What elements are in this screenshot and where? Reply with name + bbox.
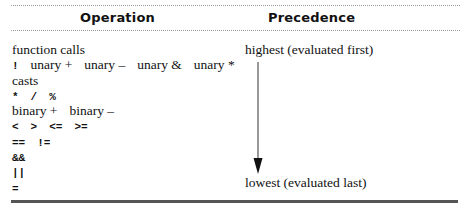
header-operation: Operation [80, 10, 155, 25]
operator-token: unary – [84, 57, 125, 72]
operation-row: casts [12, 73, 247, 88]
operator-token: casts [12, 73, 38, 88]
operator-token: unary * [194, 57, 235, 72]
operator-token: = [12, 182, 19, 197]
precedence-highest: highest (evaluated first) [245, 42, 373, 58]
operation-row: binary +binary – [12, 103, 247, 118]
operator-token: binary – [69, 103, 114, 118]
operator-token: unary & [137, 57, 182, 72]
operation-row: ==!= [12, 134, 247, 149]
operator-token: binary + [12, 103, 57, 118]
operation-row: !unary +unary –unary &unary * [12, 57, 247, 72]
operator-token: function calls [12, 42, 85, 57]
operator-token: unary + [31, 57, 73, 72]
operation-row: || [12, 164, 247, 179]
operation-row: = [12, 180, 247, 195]
down-arrow-icon [252, 62, 264, 174]
operations-column: function calls!unary +unary –unary &unar… [12, 42, 247, 195]
table-top-rule [11, 5, 460, 6]
precedence-lowest: lowest (evaluated last) [245, 175, 366, 191]
arrow-head [254, 158, 263, 174]
operator-token: >= [74, 120, 87, 135]
header-rule [11, 30, 460, 31]
operation-row: <><=>= [12, 118, 247, 133]
header-precedence: Precedence [268, 10, 355, 25]
operation-row: */% [12, 88, 247, 103]
operation-row: function calls [12, 42, 247, 57]
operation-row: && [12, 149, 247, 164]
table-bottom-rule [11, 200, 458, 203]
operator-token: != [37, 136, 50, 151]
